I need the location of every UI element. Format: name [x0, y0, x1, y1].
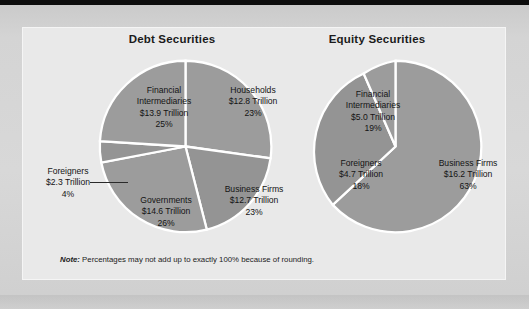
- scan-edge-bottom: [0, 295, 529, 309]
- pie-slice-debt-households[interactable]: [186, 61, 272, 159]
- scan-edge-top: [0, 0, 529, 5]
- pie-debt-svg: [98, 59, 273, 234]
- figure-panel: Debt Securities Equity Securities Financ…: [22, 27, 506, 280]
- label-percent: 4%: [30, 189, 106, 200]
- pie-label-debt-foreigners: Foreigners $2.3 Trillion 4%: [30, 166, 106, 200]
- pie-chart-equity-securities: [308, 59, 483, 234]
- chart-title-equity-securities: Equity Securities: [272, 33, 482, 45]
- scanned-page: Debt Securities Equity Securities Financ…: [0, 0, 529, 309]
- pie-chart-debt-securities: [98, 59, 273, 234]
- pie-equity-svg: [308, 59, 483, 234]
- note-text: Percentages may not add up to exactly 10…: [82, 255, 314, 264]
- note-label: Note:: [60, 255, 80, 264]
- label-name: Foreigners: [30, 166, 106, 177]
- label-value: $2.3 Trillion: [30, 177, 106, 188]
- pie-slice-debt-financial-intermediaries[interactable]: [100, 61, 186, 147]
- figure-note: Note: Percentages may not add up to exac…: [60, 255, 314, 264]
- chart-title-debt-securities: Debt Securities: [62, 33, 282, 45]
- leader-line-debt-foreigners: [90, 182, 128, 183]
